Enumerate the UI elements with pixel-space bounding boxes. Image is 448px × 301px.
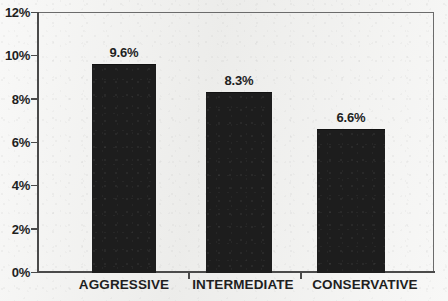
y-axis-tick [31, 98, 38, 100]
bar-aggressive [92, 64, 156, 273]
y-axis-tick [31, 55, 38, 57]
y-axis-label-6: 6% [0, 136, 30, 149]
y-axis-label-0: 0% [0, 266, 30, 279]
bar-value-aggressive: 9.6% [110, 46, 139, 59]
category-label-conservative: CONSERVATIVE [312, 276, 417, 294]
y-axis-label-4: 4% [0, 179, 30, 192]
y-axis-tick [31, 185, 38, 187]
bar-value-intermediate: 8.3% [225, 74, 254, 87]
bar-chart: 12% 10% 8% 6% 4% 2% 0% 9.6% 8.3% 6.6% AG… [0, 0, 448, 301]
y-axis-tick [31, 12, 38, 14]
category-label-intermediate: INTERMEDIATE [192, 276, 293, 294]
bar-value-conservative: 6.6% [337, 111, 366, 124]
y-axis-tick [31, 272, 38, 274]
x-axis-separator-tick [300, 272, 302, 279]
y-axis-label-12: 12% [0, 6, 30, 19]
y-axis-label-8: 8% [0, 92, 30, 105]
y-axis-tick [31, 228, 38, 230]
y-axis-tick [31, 142, 38, 144]
bar-intermediate [206, 92, 272, 273]
y-axis-label-10: 10% [0, 49, 30, 62]
x-axis-separator-tick [188, 272, 190, 279]
bar-conservative [317, 129, 385, 273]
y-axis-label-2: 2% [0, 222, 30, 235]
category-label-aggressive: AGGRESSIVE [79, 276, 169, 294]
